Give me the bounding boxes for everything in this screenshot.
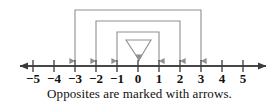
tick-label-pos5: 5 <box>228 72 258 86</box>
opposite-bracket-neg3-pos3 <box>75 10 201 61</box>
opposites-number-line-figure: −5 −4 −3 −2 −1 0 1 2 3 4 5 Opposites are… <box>0 0 279 106</box>
opposite-bracket-group <box>75 10 201 61</box>
figure-caption: Opposites are marked with arrows. <box>0 86 279 102</box>
zero-self-opposite-marker <box>126 40 151 62</box>
zero-arrowhead-icon <box>135 55 142 62</box>
